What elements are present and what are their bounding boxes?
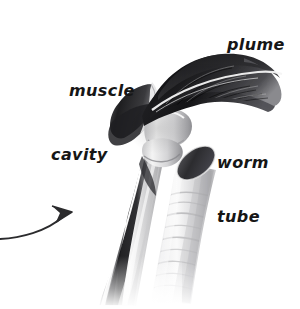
label-worm-tube-line1: worm <box>217 154 269 172</box>
label-worm-tube: worm tube <box>217 118 269 262</box>
curved-arrow-icon <box>0 206 72 239</box>
label-muscle: muscle <box>69 82 135 100</box>
label-worm-tube-line2: tube <box>217 208 269 226</box>
illustration-figure: plume muscle worm tube cavity <box>0 0 300 309</box>
label-plume: plume <box>227 36 285 54</box>
label-cavity: cavity <box>51 146 108 164</box>
plume-shape <box>142 54 292 126</box>
